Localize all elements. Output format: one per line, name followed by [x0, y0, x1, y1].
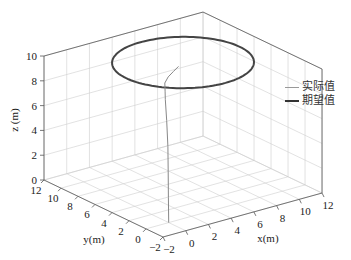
- floor-gridline-x: [89, 167, 208, 224]
- legend-label-desired: 期望值: [302, 94, 335, 108]
- x-tick-label: 8: [280, 212, 286, 224]
- backwall-gridline-z: [44, 37, 203, 81]
- x-tick: [163, 237, 165, 241]
- floor-gridline-y: [78, 152, 237, 196]
- 3d-trajectory-chart: 0246810−2024681012−2024681012x(m)y(m)z (…: [0, 0, 351, 260]
- floor-gridline-y: [95, 160, 254, 204]
- x-tick-label: −2: [163, 243, 175, 255]
- x-tick: [186, 231, 188, 235]
- floor-gridline-y: [61, 144, 220, 188]
- backwall-gridline-z: [44, 111, 203, 155]
- y-tick: [109, 213, 112, 216]
- y-tick-label: 10: [48, 192, 60, 204]
- backwall-gridline-z: [44, 86, 203, 130]
- z-tick-label: 2: [32, 149, 38, 161]
- y-tick-label: 2: [118, 225, 124, 237]
- y-tick: [41, 180, 44, 183]
- y-tick-label: −2: [149, 241, 161, 253]
- x-tick: [322, 193, 324, 197]
- x-tick-label: 2: [212, 230, 218, 242]
- floor-gridline-x: [180, 142, 299, 199]
- z-tick-label: 10: [26, 50, 38, 62]
- backwall-gridline-z: [44, 136, 203, 180]
- floor-gridline-x: [158, 149, 277, 206]
- x-tick-label: 6: [257, 218, 263, 230]
- desired-trajectory-line: [112, 37, 254, 88]
- y-tick: [143, 229, 146, 232]
- y-tick-label: 8: [67, 200, 73, 212]
- y-tick-label: 6: [84, 208, 90, 220]
- y-axis-label: y(m): [83, 233, 105, 246]
- y-tick-label: 0: [135, 233, 141, 245]
- y-tick: [58, 188, 61, 191]
- sidewall-gridline-z: [203, 111, 322, 168]
- z-axis-label: z (m): [8, 108, 21, 132]
- x-tick-label: 4: [234, 224, 240, 236]
- legend-label-actual: 实际值: [302, 80, 335, 94]
- x-tick: [208, 224, 210, 228]
- y-tick-label: 4: [101, 217, 107, 229]
- y-tick: [160, 237, 163, 240]
- y-tick: [126, 221, 129, 224]
- legend: 实际值 期望值: [285, 80, 335, 108]
- legend-swatch-desired: [285, 100, 299, 102]
- legend-item-actual: 实际值: [285, 80, 335, 94]
- legend-swatch-actual: [285, 87, 299, 88]
- x-tick: [277, 206, 279, 210]
- x-axis-label: x(m): [257, 232, 279, 245]
- backwall-gridline-z: [44, 62, 203, 106]
- z-tick-label: 6: [32, 100, 38, 112]
- x-tick-label: 10: [300, 205, 312, 217]
- sidewall-gridline-z: [203, 136, 322, 193]
- x-tick: [299, 199, 301, 203]
- legend-item-desired: 期望值: [285, 94, 335, 108]
- floor-gridline-y: [129, 177, 288, 221]
- z-tick-label: 4: [32, 124, 38, 136]
- y-tick: [92, 204, 95, 207]
- x-tick: [254, 212, 256, 216]
- x-tick-label: 0: [189, 237, 195, 249]
- x-tick: [231, 218, 233, 222]
- floor-gridline-x: [135, 155, 254, 212]
- floor-gridline-x: [112, 161, 231, 218]
- x-tick-label: 12: [323, 199, 334, 211]
- y-tick: [75, 196, 78, 199]
- floor-gridline-y: [112, 169, 271, 213]
- x-axis-line: [163, 193, 322, 237]
- y-tick-label: 12: [31, 184, 42, 196]
- z-tick-label: 8: [32, 75, 38, 87]
